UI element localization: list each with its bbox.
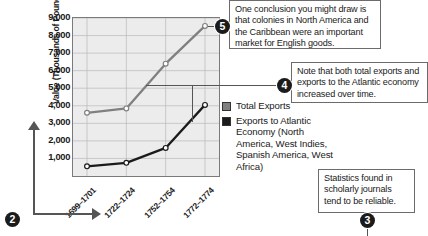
callout-box-5: One conclusion you might draw is that co… bbox=[229, 0, 381, 49]
y-axis-tick-label: 4,000 bbox=[48, 101, 70, 110]
callout-badge-5[interactable]: 5 bbox=[215, 19, 230, 34]
y-axis-tick-label: 9,000 bbox=[48, 13, 70, 22]
callout-box-3: Statistics found in scholarly journals t… bbox=[318, 169, 415, 213]
chart-svg bbox=[73, 18, 219, 176]
callout-leader-line-4-vertical bbox=[192, 85, 193, 122]
y-axis-tick-labels: 1,0002,0003,0004,0005,0006,0007,0008,000… bbox=[30, 14, 70, 180]
legend-item-atlantic-economy[interactable]: Exports to Atlantic Economy (North Ameri… bbox=[222, 115, 337, 173]
x-axis-tick-label: 1752–1754 bbox=[142, 185, 177, 220]
legend-swatch-icon bbox=[222, 102, 231, 111]
legend-item-label: Total Exports bbox=[236, 100, 290, 112]
annotation-axis-vertical-line bbox=[33, 128, 35, 214]
chart-plot-area bbox=[72, 17, 220, 177]
legend-swatch-icon bbox=[222, 117, 231, 126]
y-axis-tick-label: 7,000 bbox=[48, 48, 70, 57]
callout-badge-4[interactable]: 4 bbox=[277, 78, 292, 93]
y-axis-tick-label: 1,000 bbox=[48, 154, 70, 163]
y-axis-tick-label: 6,000 bbox=[48, 66, 70, 75]
x-axis-tick-label: 1722–1724 bbox=[102, 185, 137, 220]
callout-leader-line-4 bbox=[146, 85, 279, 86]
arrow-right-icon bbox=[92, 208, 101, 220]
x-axis-tick-label: 1772–1774 bbox=[181, 185, 216, 220]
callout-badge-3[interactable]: 3 bbox=[360, 213, 375, 228]
y-axis-tick-label: 3,000 bbox=[48, 119, 70, 128]
y-axis-tick-label: 8,000 bbox=[48, 31, 70, 40]
callout-box-4: Note that both total exports and exports… bbox=[291, 62, 428, 103]
y-axis-tick-label: 5,000 bbox=[48, 84, 70, 93]
axes-badge-2[interactable]: 2 bbox=[5, 212, 20, 227]
annotation-axis-horizontal-line bbox=[33, 213, 95, 215]
legend-item-label: Exports to Atlantic Economy (North Ameri… bbox=[236, 115, 337, 173]
arrow-up-icon bbox=[28, 121, 40, 130]
chart-legend: Total Exports Exports to Atlantic Econom… bbox=[222, 100, 337, 176]
y-axis-tick-label: 2,000 bbox=[48, 136, 70, 145]
